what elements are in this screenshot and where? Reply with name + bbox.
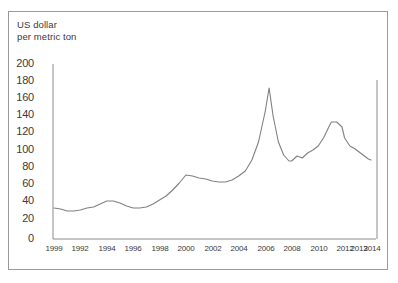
xtick-label-2008: 2008 [277,244,307,253]
ytick-label-160: 160 [8,91,34,103]
ytick-label-0: 0 [8,232,34,244]
ytick-label-120: 120 [8,125,34,137]
ytick-label-180: 180 [8,74,34,86]
ytick-label-100: 100 [8,143,34,155]
plot-area [8,11,388,270]
axes-group [53,64,376,239]
xtick-label-2000: 2000 [171,244,201,253]
xtick-label-1996: 1996 [118,244,148,253]
ytick-label-140: 140 [8,108,34,120]
xtick-label-2004: 2004 [224,244,254,253]
xtick-label-1992: 1992 [65,244,95,253]
ytick-label-80: 80 [8,160,34,172]
price-line [54,88,371,211]
ytick-label-20: 20 [8,212,34,224]
ytick-label-200: 200 [8,57,34,69]
chart-figure: US dollar per metric ton 200 180 160 140… [0,0,398,283]
data-series-group [54,88,371,211]
xtick-label-2014: 2014 [357,244,387,253]
ytick-label-60: 60 [8,177,34,189]
ytick-label-40: 40 [8,194,34,206]
